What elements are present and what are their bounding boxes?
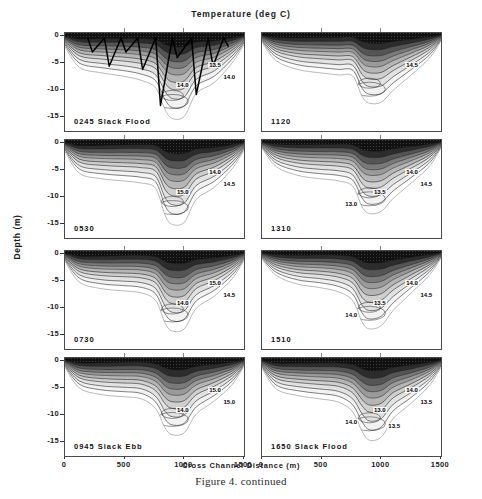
contour-label: 13.5 [420,399,434,405]
contour-label: 14.5 [223,181,237,187]
cross-section-panel: 14.014.513.513.01310 [261,139,442,239]
x-tick-label: 0 [246,460,276,469]
contour-label: 13.5 [373,300,387,306]
x-tick-label: 500 [109,460,139,469]
figure-temperature-cross-sections: Temperature (deg C) Depth (m) Cross Chan… [0,0,482,499]
y-tick-label: -5 [33,275,59,284]
contour-label: 14.0 [405,387,419,393]
contour-label: 14.5 [223,292,237,298]
cross-section-panel: 13.514.014.00245 Slack Flood [64,32,245,132]
panel-label: 1510 [271,335,292,344]
cross-section-panel: 15.015.014.00945 Slack Ebb [64,357,245,457]
contour-label: 15.0 [176,189,190,195]
x-tick-label: 1000 [168,460,198,469]
contour-label: 13.0 [373,407,387,413]
contour-label: 14.0 [344,312,358,318]
cross-section-panel: 14.014.515.00530 [64,139,245,239]
panel-label: 1310 [271,224,292,233]
contour-label: 13.0 [344,201,358,207]
contour-label: 14.5 [420,292,434,298]
x-tick-label: 1000 [365,460,395,469]
y-tick-label: -10 [33,409,59,418]
contour-label: 14.0 [176,407,190,413]
y-tick-label: -15 [33,111,59,120]
y-axis-label: Depth (m) [12,194,22,280]
y-tick-label: -5 [33,164,59,173]
contour-label: 14.5 [405,62,419,68]
contour-label: 14.5 [420,181,434,187]
contour-label: 14.0 [405,169,419,175]
contour-label: 14.0 [405,280,419,286]
y-tick-label: -15 [33,218,59,227]
contour-label: 13.5 [387,423,401,429]
y-tick-label: 0 [33,248,59,257]
panel-label: 1120 [271,117,291,126]
panel-label: 0245 Slack Flood [74,117,151,126]
y-tick-label: 0 [33,137,59,146]
contour-label: 14.0 [344,419,358,425]
panel-label: 0730 [74,335,95,344]
cross-section-panel: 14.51120 [261,32,442,132]
y-tick-label: -5 [33,57,59,66]
contour-label: 15.0 [208,280,222,286]
contour-label: 14.0 [208,169,222,175]
panel-label: 1650 Slack Flood [271,442,348,451]
cross-section-panel: 14.013.513.014.013.51650 Slack Flood [261,357,442,457]
contour-label: 14.0 [176,82,190,88]
x-tick-label: 500 [306,460,336,469]
cross-section-panel: 14.014.513.514.01510 [261,250,442,350]
y-tick-label: -10 [33,302,59,311]
y-tick-label: -15 [33,436,59,445]
contour-label: 14.0 [223,74,237,80]
y-tick-label: -10 [33,191,59,200]
y-tick-label: 0 [33,30,59,39]
y-tick-label: -5 [33,382,59,391]
contour-label: 13.5 [373,189,387,195]
x-tick-label: 0 [49,460,79,469]
contour-label: 14.0 [176,300,190,306]
figure-title: Temperature (deg C) [0,9,482,19]
y-tick-label: -10 [33,84,59,93]
cross-section-panel: 15.014.514.00730 [64,250,245,350]
contour-label: 13.5 [208,62,222,68]
figure-caption: Figure 4. continued [0,475,482,487]
x-tick-label: 1500 [425,460,455,469]
panel-label: 0945 Slack Ebb [74,442,143,451]
panel-label: 0530 [74,224,95,233]
y-tick-label: -15 [33,329,59,338]
contour-label: 15.0 [223,399,237,405]
y-tick-label: 0 [33,355,59,364]
contour-label: 15.0 [208,387,222,393]
